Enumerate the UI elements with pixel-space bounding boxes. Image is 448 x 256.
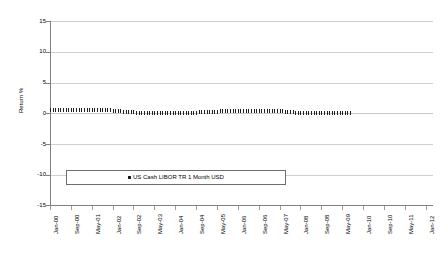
data-point — [76, 108, 77, 112]
data-point — [139, 111, 140, 115]
data-point — [220, 109, 221, 113]
data-point — [280, 109, 281, 113]
data-point — [345, 111, 346, 115]
data-point — [350, 111, 351, 115]
data-point — [272, 109, 273, 113]
data-point — [191, 111, 192, 115]
data-point — [300, 111, 301, 115]
y-tick-label: -15 — [20, 202, 46, 209]
data-point — [58, 108, 59, 112]
x-tick-label: May-07 — [283, 214, 290, 234]
x-tick-label: Sep-08 — [324, 215, 331, 234]
y-tick-label: 10 — [20, 48, 46, 55]
x-tick-label: May-01 — [95, 214, 102, 234]
data-point — [113, 109, 114, 113]
y-tick-label: -10 — [20, 171, 46, 178]
data-point — [311, 111, 312, 115]
data-point — [274, 109, 275, 113]
data-point — [319, 111, 320, 115]
data-point — [162, 111, 163, 115]
y-tick-label: 5 — [20, 79, 46, 86]
data-point — [100, 108, 101, 112]
data-point — [222, 109, 223, 113]
x-tick — [113, 206, 114, 210]
data-point — [298, 111, 299, 115]
data-point — [175, 111, 176, 115]
data-point — [133, 110, 134, 114]
data-point — [295, 111, 296, 115]
x-tick — [426, 206, 427, 210]
data-point — [183, 111, 184, 115]
y-axis-title: Return % — [18, 88, 25, 113]
legend-marker-icon — [128, 176, 131, 179]
x-tick — [342, 206, 343, 210]
x-tick — [238, 206, 239, 210]
data-point — [329, 111, 330, 115]
data-point — [340, 111, 341, 115]
data-point — [233, 109, 234, 113]
data-point — [246, 109, 247, 113]
legend-label: US Cash LIBOR TR 1 Month USD — [133, 174, 224, 181]
data-point — [97, 108, 98, 112]
x-tick — [196, 206, 197, 210]
data-point — [347, 111, 348, 115]
data-point — [217, 110, 218, 114]
data-point — [316, 111, 317, 115]
data-point — [196, 111, 197, 115]
data-point — [144, 111, 145, 115]
x-tick — [259, 206, 260, 210]
data-point — [154, 111, 155, 115]
x-tick — [154, 206, 155, 210]
data-point — [180, 111, 181, 115]
data-point — [209, 110, 210, 114]
data-point — [147, 111, 148, 115]
data-point — [327, 111, 328, 115]
x-tick — [50, 206, 51, 210]
data-point — [120, 109, 121, 113]
data-point — [149, 111, 150, 115]
data-point — [201, 110, 202, 114]
x-tick-label: May-11 — [408, 214, 415, 234]
x-tick-label: Jan-00 — [53, 216, 60, 234]
data-point — [235, 109, 236, 113]
data-point — [267, 109, 268, 113]
data-point — [227, 109, 228, 113]
data-point — [259, 109, 260, 113]
data-point — [165, 111, 166, 115]
data-point — [73, 108, 74, 112]
data-point — [118, 109, 119, 113]
data-point — [178, 111, 179, 115]
x-tick — [363, 206, 364, 210]
data-point — [230, 109, 231, 113]
x-tick-label: Sep-10 — [387, 215, 394, 234]
x-tick-label: May-09 — [345, 214, 352, 234]
data-point — [188, 111, 189, 115]
data-point — [107, 108, 108, 112]
data-point — [115, 109, 116, 113]
data-point — [50, 108, 51, 112]
data-point — [277, 109, 278, 113]
data-point — [334, 111, 335, 115]
data-point — [141, 111, 142, 115]
data-point — [240, 109, 241, 113]
data-point — [269, 109, 270, 113]
x-tick — [300, 206, 301, 210]
x-tick — [92, 206, 93, 210]
data-point — [63, 108, 64, 112]
data-point — [89, 108, 90, 112]
legend-entry[interactable]: US Cash LIBOR TR 1 Month USD — [128, 174, 224, 181]
data-point — [256, 109, 257, 113]
data-point — [303, 111, 304, 115]
x-tick-label: Jan-08 — [303, 216, 310, 234]
data-point — [207, 110, 208, 114]
data-point — [251, 109, 252, 113]
data-point — [71, 108, 72, 112]
x-tick — [384, 206, 385, 210]
data-point — [92, 108, 93, 112]
data-point — [167, 111, 168, 115]
data-point — [128, 110, 129, 114]
chart-legend[interactable]: US Cash LIBOR TR 1 Month USD — [66, 170, 286, 185]
data-point — [55, 108, 56, 112]
data-point — [66, 108, 67, 112]
data-point — [157, 111, 158, 115]
